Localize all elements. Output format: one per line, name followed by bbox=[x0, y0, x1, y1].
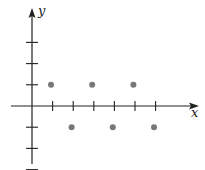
scatter-plot: x y bbox=[0, 0, 205, 170]
x-axis-label: x bbox=[191, 105, 199, 120]
data-point bbox=[48, 82, 54, 88]
data-point bbox=[69, 124, 75, 130]
data-point bbox=[89, 82, 95, 88]
axes bbox=[11, 8, 199, 164]
data-point bbox=[151, 124, 157, 130]
y-axis-label: y bbox=[37, 3, 46, 18]
data-point bbox=[130, 82, 136, 88]
data-point bbox=[110, 124, 116, 130]
